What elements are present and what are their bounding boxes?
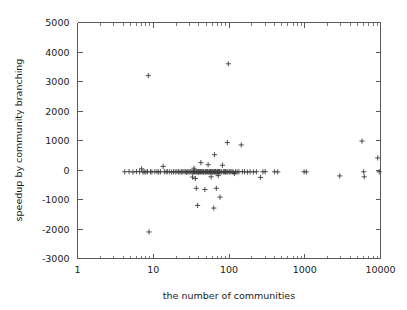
data-point-marker xyxy=(208,174,213,179)
data-point-marker xyxy=(202,187,207,192)
x-axis-minor-ticks xyxy=(100,23,377,259)
x-tick-label: 1000 xyxy=(293,264,317,275)
y-axis-tick-labels: -3000-2000-1000010002000300040005000 xyxy=(42,17,70,264)
data-point-marker xyxy=(359,138,364,143)
data-point-marker xyxy=(211,205,216,210)
y-tick-label: -3000 xyxy=(42,253,70,264)
scatter-plot-figure: 110100100010000 -3000-2000-1000010002000… xyxy=(0,0,407,310)
x-tick-label: 1 xyxy=(74,264,80,275)
data-point-marker xyxy=(226,61,231,66)
data-point-marker xyxy=(361,169,366,174)
data-point-marker xyxy=(195,203,200,208)
x-tick-label: 100 xyxy=(220,264,238,275)
y-tick-label: 2000 xyxy=(45,106,69,117)
x-tick-label: 10 xyxy=(147,264,159,275)
x-axis-title: the number of communities xyxy=(163,290,295,301)
plot-canvas: 110100100010000 -3000-2000-1000010002000… xyxy=(0,0,407,310)
data-point-marker xyxy=(220,163,225,168)
data-point-marker xyxy=(146,229,151,234)
data-point-marker xyxy=(214,186,219,191)
data-point-marker xyxy=(337,173,342,178)
x-axis-tick-labels: 110100100010000 xyxy=(74,264,395,275)
data-point-marker xyxy=(130,169,135,174)
data-point-marker xyxy=(275,169,280,174)
data-point-marker xyxy=(362,174,367,179)
y-tick-label: 4000 xyxy=(45,47,69,58)
data-point-markers xyxy=(122,61,382,234)
data-point-marker xyxy=(239,142,244,147)
y-tick-label: 5000 xyxy=(45,17,69,28)
y-tick-label: -1000 xyxy=(42,194,70,205)
data-point-marker xyxy=(217,195,222,200)
data-point-marker xyxy=(225,140,230,145)
data-point-marker xyxy=(254,169,259,174)
x-tick-label: 10000 xyxy=(365,264,395,275)
y-axis-title: speedup by community branching xyxy=(13,59,24,222)
y-tick-label: 3000 xyxy=(45,76,69,87)
y-tick-label: 0 xyxy=(63,165,69,176)
data-point-marker xyxy=(198,160,203,165)
data-point-marker xyxy=(146,73,151,78)
plot-frame xyxy=(78,23,381,259)
data-point-marker xyxy=(375,155,380,160)
x-axis-major-ticks xyxy=(78,23,381,259)
data-point-marker xyxy=(194,186,199,191)
y-tick-label: -2000 xyxy=(42,224,70,235)
data-point-marker xyxy=(161,164,166,169)
data-point-marker xyxy=(212,152,217,157)
data-point-marker xyxy=(206,162,211,167)
y-axis-major-ticks xyxy=(78,23,381,259)
data-point-marker xyxy=(258,175,263,180)
y-tick-label: 1000 xyxy=(45,135,69,146)
